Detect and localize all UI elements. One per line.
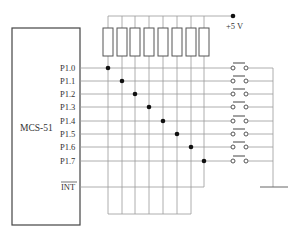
pin-label-p1-4: P1.4 [60,116,76,126]
mcu-label: MCS-51 [20,123,53,133]
resistor-icon [172,28,182,56]
resistor-icon [117,28,127,56]
resistor-icon [103,28,113,56]
resistor-icon [158,28,168,56]
resistor-icon [144,28,154,56]
pin-label-int: INT [61,182,76,192]
switch-icon [231,102,248,109]
pin-label-p1-5: P1.5 [60,129,75,139]
pin-label-p1-1: P1.1 [60,76,75,86]
row-wires [80,68,231,214]
resistor-icon [199,28,209,56]
pin-label-p1-7: P1.7 [60,156,75,166]
pin-labels: P1.0 P1.1 P1.2 P1.3 P1.4 P1.5 P1.6 P1.7 … [60,63,77,192]
supply-label: +5 V [226,21,244,31]
pin-label-p1-2: P1.2 [60,89,75,99]
key-switches [231,63,248,163]
switch-icon [231,142,248,149]
resistor-icon [186,28,196,56]
pin-label-p1-6: P1.6 [60,142,75,152]
resistor-icon [130,28,140,56]
switch-icon [231,63,248,70]
switch-icon [231,76,248,83]
switch-icon [231,129,248,136]
pullup-resistors [103,28,209,56]
pin-label-p1-0: P1.0 [60,63,75,73]
switch-icon [231,156,248,163]
circuit-diagram: MCS-51 P1.0 P1.1 P1.2 P1.3 P1.4 P1.5 P1.… [0,0,294,234]
ground-bus [248,68,288,187]
switch-icon [231,116,248,123]
supply-node [231,14,236,19]
switch-icon [231,89,248,96]
pin-label-p1-3: P1.3 [60,102,75,112]
